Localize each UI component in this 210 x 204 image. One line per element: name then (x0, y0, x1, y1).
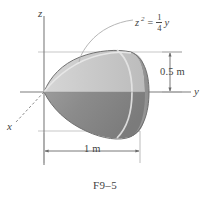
dimension-height-label: 0.5 m (160, 67, 185, 78)
equation-fraction: 1 4 (156, 13, 162, 33)
paraboloid-solid (44, 50, 149, 139)
equation-variable: z (135, 18, 139, 29)
equation-equals-sign: = (148, 18, 154, 28)
x-axis-label: x (7, 121, 12, 132)
figure-caption: F9–5 (0, 180, 210, 191)
y-axis-label: y (194, 86, 199, 97)
equation-rhs-variable: y (164, 18, 169, 29)
z-axis-label: z (38, 8, 42, 19)
figure-container: z y x 0.5 m 1 m F9–5 z2 = 1 4 y (0, 0, 210, 204)
equation-fraction-denominator: 4 (156, 24, 162, 33)
equation-label: z2 = 1 4 y (135, 13, 169, 33)
equation-fraction-numerator: 1 (156, 13, 162, 22)
dimension-width-label: 1 m (84, 144, 101, 155)
x-axis (16, 92, 44, 122)
figure-drawing (0, 0, 210, 204)
equation-exponent: 2 (141, 16, 145, 23)
